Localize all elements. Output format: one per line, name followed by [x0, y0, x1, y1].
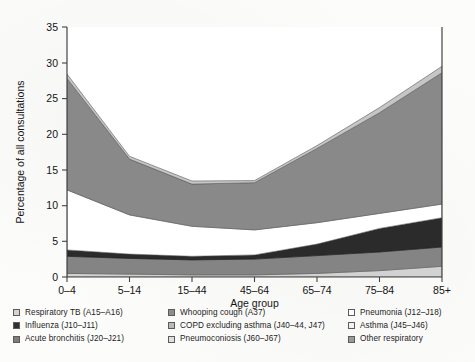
legend-label: Pneumoconiosis (J60–J67): [180, 335, 281, 343]
legend-label: COPD excluding asthma (J40–44, J47): [180, 322, 325, 330]
legend-item-other-respiratory[interactable]: Other respiratory: [348, 333, 473, 346]
y-tick-label: 25: [46, 92, 58, 104]
legend-item-influenza[interactable]: Influenza (J10–J11): [13, 319, 168, 332]
x-tick-label: 75–84: [365, 284, 394, 296]
x-tick-label: 85+: [433, 284, 451, 296]
x-tick-label: 45–64: [240, 284, 269, 296]
legend-label: Respiratory TB (A15–A16): [25, 309, 123, 317]
y-tick-label: 30: [46, 57, 58, 69]
legend-label: Influenza (J10–J11): [25, 322, 98, 330]
x-tick-marks: [67, 277, 442, 282]
legend-item-copd-excluding-asthma[interactable]: COPD excluding asthma (J40–44, J47): [168, 319, 348, 332]
y-tick-label: 0: [52, 271, 58, 283]
legend-item-asthma[interactable]: Asthma (J45–J46): [348, 319, 473, 332]
y-axis-title: Percentage of all consultations: [14, 80, 26, 223]
chart-legend: Respiratory TB (A15–A16) Influenza (J10–…: [0, 306, 475, 356]
legend-item-respiratory-tb[interactable]: Respiratory TB (A15–A16): [13, 306, 168, 319]
legend-column-2: Whooping cough (A37) COPD excluding asth…: [168, 306, 348, 346]
legend-label: Whooping cough (A37): [180, 309, 265, 317]
y-tick-label: 10: [46, 199, 58, 211]
x-tick-label: 0–4: [58, 284, 76, 296]
legend-label: Asthma (J45–J46): [360, 322, 428, 330]
legend-swatch-icon: [13, 309, 20, 316]
legend-swatch-icon: [168, 322, 175, 329]
legend-label: Acute bronchitis (J20–J21): [25, 335, 124, 343]
x-tick-label: 5–14: [118, 284, 142, 296]
legend-item-pneumonia[interactable]: Pneumonia (J12–J18): [348, 306, 473, 319]
legend-column-3: Pneumonia (J12–J18) Asthma (J45–J46) Oth…: [348, 306, 473, 346]
stacked-area-chart-figure: 0 5 10 15 20 25 30 35 0–4 5–14 15–44 45–…: [0, 0, 475, 362]
x-tick-label: 65–74: [302, 284, 331, 296]
legend-swatch-icon: [348, 336, 355, 343]
legend-column-1: Respiratory TB (A15–A16) Influenza (J10–…: [13, 306, 168, 346]
y-tick-label: 15: [46, 164, 58, 176]
legend-item-acute-bronchitis[interactable]: Acute bronchitis (J20–J21): [13, 333, 168, 346]
y-tick-label: 5: [52, 235, 58, 247]
legend-swatch-icon: [13, 336, 20, 343]
y-tick-marks: [62, 27, 67, 277]
legend-swatch-icon: [348, 309, 355, 316]
y-tick-label: 35: [46, 21, 58, 33]
x-tick-labels: 0–4 5–14 15–44 45–64 65–74 75–84 85+: [58, 284, 451, 296]
x-tick-label: 15–44: [177, 284, 206, 296]
legend-label: Other respiratory: [360, 335, 423, 343]
legend-swatch-icon: [348, 322, 355, 329]
legend-label: Pneumonia (J12–J18): [360, 309, 442, 317]
legend-swatch-icon: [168, 309, 175, 316]
y-tick-label: 20: [46, 128, 58, 140]
legend-item-whooping-cough[interactable]: Whooping cough (A37): [168, 306, 348, 319]
y-tick-labels: 0 5 10 15 20 25 30 35: [46, 21, 58, 283]
legend-swatch-icon: [168, 336, 175, 343]
legend-item-pneumoconiosis[interactable]: Pneumoconiosis (J60–J67): [168, 333, 348, 346]
legend-swatch-icon: [13, 322, 20, 329]
